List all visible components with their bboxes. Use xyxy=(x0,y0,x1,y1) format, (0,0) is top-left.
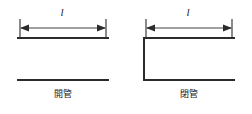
dimension-label: l xyxy=(60,6,63,18)
open-pipe-diagram: l xyxy=(0,0,126,88)
arrowhead-right xyxy=(97,24,106,31)
dimension-label: l xyxy=(186,6,189,18)
arrowhead-right xyxy=(223,24,232,31)
closed-pipe-diagram: l xyxy=(126,0,252,88)
arrowhead-left xyxy=(146,24,155,31)
pipe-wall-closed-u xyxy=(144,38,234,80)
arrowhead-left xyxy=(20,24,29,31)
panel-closed-pipe: l 閉管 xyxy=(126,0,252,114)
caption-open-pipe: 開管 xyxy=(0,88,126,100)
figure-root: l 開管 l xyxy=(0,0,252,114)
caption-closed-pipe: 閉管 xyxy=(126,88,252,100)
panel-open-pipe: l 開管 xyxy=(0,0,126,114)
